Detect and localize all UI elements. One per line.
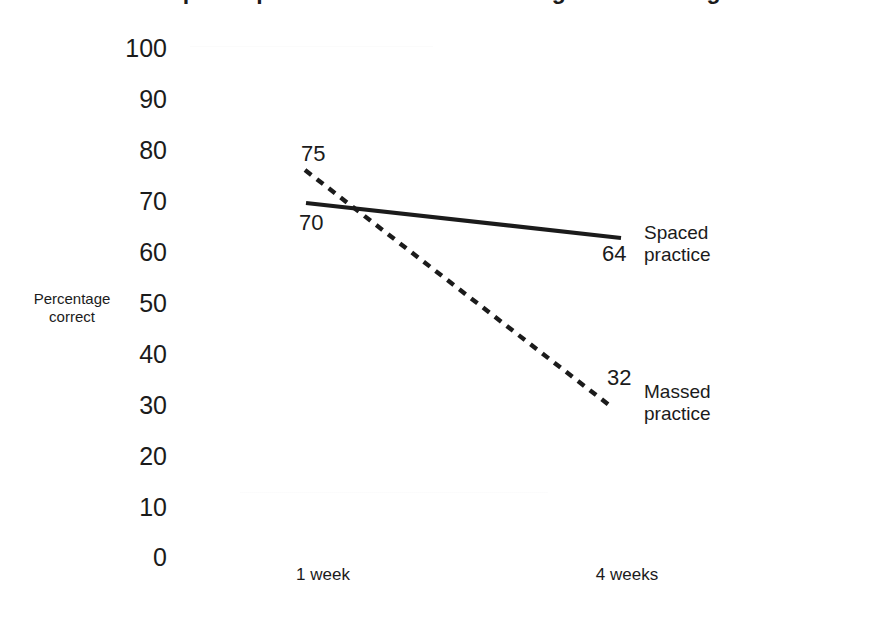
series-layer <box>0 0 888 626</box>
point-label-spaced-64: 64 <box>602 243 626 265</box>
legend-spaced-line-1: Spaced <box>644 222 711 244</box>
point-label-massed-75: 75 <box>301 143 325 165</box>
legend-label-massed-practice: Massed practice <box>644 381 711 426</box>
point-label-spaced-70: 70 <box>299 212 323 234</box>
legend-massed-line-2: practice <box>644 403 711 425</box>
chart-container: Spaced practice leads to better long-ter… <box>0 0 888 626</box>
legend-spaced-line-2: practice <box>644 244 711 266</box>
legend-label-spaced-practice: Spaced practice <box>644 222 711 267</box>
series-line-massed-practice <box>305 170 609 405</box>
point-label-massed-32: 32 <box>607 367 631 389</box>
legend-massed-line-1: Massed <box>644 381 711 403</box>
